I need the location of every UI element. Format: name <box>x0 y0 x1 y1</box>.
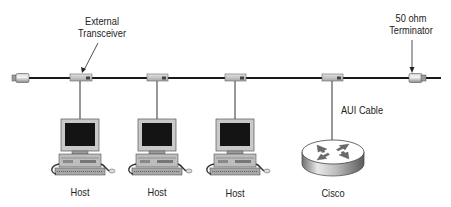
label-host-3: Host <box>217 187 252 199</box>
drop-cables <box>80 81 332 140</box>
callout-arrow-terminator <box>410 40 415 73</box>
transceiver-1-icon <box>70 74 92 81</box>
transceiver-4-icon <box>322 74 343 81</box>
label-terminator-1: 50 ohm <box>385 12 438 24</box>
terminator-left-icon <box>12 74 29 83</box>
label-external-transceiver-2: Transceiver <box>76 27 129 39</box>
label-host-1: Host <box>62 186 97 198</box>
router-icon <box>302 140 364 176</box>
host-2-icon <box>129 119 192 175</box>
host-3-icon <box>207 119 270 175</box>
host-1-icon <box>52 119 115 175</box>
label-cisco: Cisco <box>315 187 350 199</box>
label-host-2: Host <box>139 186 174 198</box>
transceiver-2-icon <box>147 74 168 81</box>
label-terminator-2: Terminator <box>385 24 438 36</box>
callout-arrow-transceiver <box>81 43 98 73</box>
terminator-right-icon <box>409 74 426 83</box>
network-diagram: External Transceiver 50 ohm Terminator A… <box>0 0 451 207</box>
label-aui-cable: AUI Cable <box>337 104 386 116</box>
label-external-transceiver-1: External <box>76 15 129 27</box>
transceiver-3-icon <box>225 74 246 81</box>
